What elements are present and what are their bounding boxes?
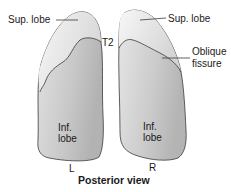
right-inf-lobe-label: Inf. lobe — [143, 121, 167, 143]
left-inf-lobe-label-line2: lobe — [58, 133, 82, 144]
left-inf-lobe-label-line1: Inf. — [58, 122, 82, 133]
left-side-label: L — [69, 163, 75, 174]
left-sup-lobe-label: Sup. lobe — [8, 14, 50, 25]
right-inf-lobe-label-line2: lobe — [143, 132, 167, 143]
right-sup-lobe-label: Sup. lobe — [168, 13, 210, 24]
diagram-title: Posterior view — [78, 175, 150, 186]
lungs-diagram — [0, 0, 231, 192]
right-side-label: R — [149, 162, 156, 173]
t2-label: T2 — [102, 37, 114, 48]
oblique-fissure-label: Oblique fissure — [192, 46, 226, 70]
right-inf-lobe-label-line1: Inf. — [143, 121, 167, 132]
left-inf-lobe-label: Inf. lobe — [58, 122, 82, 144]
oblique-fissure-label-line2: fissure — [192, 58, 226, 70]
oblique-fissure-label-line1: Oblique — [192, 46, 226, 58]
